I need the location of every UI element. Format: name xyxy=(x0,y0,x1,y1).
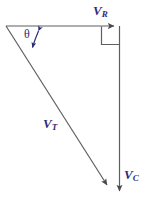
label-vr-symbol: V xyxy=(93,3,102,18)
phasor-diagram: VR VT VC θ xyxy=(0,0,149,209)
label-theta: θ xyxy=(24,28,30,40)
label-vc: VC xyxy=(124,168,139,181)
label-vc-symbol: V xyxy=(124,167,133,182)
label-vc-subscript: C xyxy=(133,173,139,183)
vector-vt-line xyxy=(6,26,107,185)
label-vt: VT xyxy=(43,117,57,130)
label-vr-subscript: R xyxy=(102,9,108,19)
label-vr: VR xyxy=(93,4,108,17)
label-vt-subscript: T xyxy=(52,122,58,132)
label-vt-symbol: V xyxy=(43,116,52,131)
angle-arc-arrow xyxy=(33,31,39,48)
right-angle-marker xyxy=(102,27,120,45)
